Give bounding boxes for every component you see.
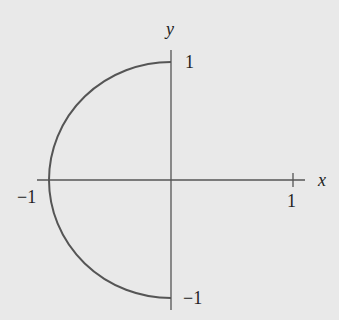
y-tick-label-1: 1 (185, 52, 194, 72)
plot: y x 1 −1 −1 1 (0, 0, 339, 320)
x-tick-label-neg1: −1 (17, 187, 36, 207)
y-axis-label: y (164, 19, 174, 39)
x-axis-label: x (317, 170, 326, 190)
y-tick-label-neg1: −1 (183, 288, 202, 308)
x-tick-label-1: 1 (287, 191, 296, 211)
